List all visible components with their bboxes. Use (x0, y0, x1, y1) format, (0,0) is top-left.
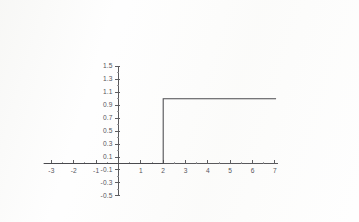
x-axis-tick-label: 6 (243, 168, 263, 175)
y-axis-tick-label: 0.5 (85, 128, 113, 135)
x-axis-tick-label: 2 (153, 168, 173, 175)
y-axis-tick-label: -0.5 (85, 193, 113, 200)
y-axis-tick-label: 0.1 (85, 154, 113, 161)
y-axis-tick-label: 1.5 (85, 63, 113, 70)
x-axis-tick-label: 4 (198, 168, 218, 175)
x-axis-tick-label: -3 (41, 168, 61, 175)
step-function-curve (44, 99, 276, 164)
x-axis-tick-label: -1 (86, 168, 106, 175)
x-axis-tick-label: -2 (64, 168, 84, 175)
y-axis-tick-label: -0.3 (85, 180, 113, 187)
x-axis-tick-label: 3 (176, 168, 196, 175)
x-axis-tick-label: 7 (265, 168, 285, 175)
x-axis-tick-label: 5 (220, 168, 240, 175)
y-axis-tick-label: 0.9 (85, 102, 113, 109)
y-axis-tick-label: 0.7 (85, 115, 113, 122)
y-axis-tick-label: 0.3 (85, 141, 113, 148)
y-axis-tick-label: 1.3 (85, 76, 113, 83)
y-axis-tick-label: 1.1 (85, 89, 113, 96)
chart-figure: 1.51.31.10.90.70.50.30.1-0.1-0.3-0.5-3-2… (0, 0, 359, 222)
plot-canvas (0, 0, 359, 222)
x-axis-tick-label: 1 (131, 168, 151, 175)
